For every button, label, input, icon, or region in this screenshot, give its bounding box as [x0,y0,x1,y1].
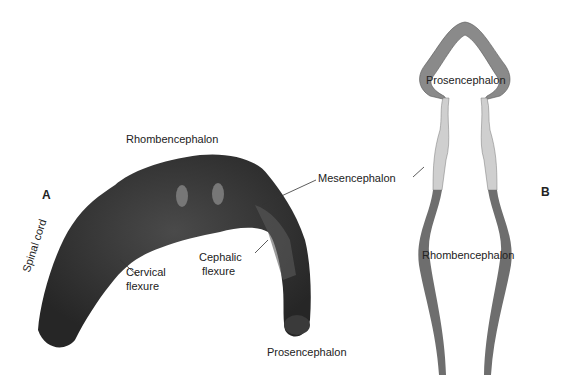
label-prosencephalon-b: Prosencephalon [426,74,506,87]
label-cervical-flexure-2: flexure [126,280,159,293]
label-rhombencephalon-a: Rhombencephalon [126,133,218,146]
diagram-graphics [0,0,579,387]
label-rhombencephalon-b: Rhombencephalon [422,249,514,262]
label-cervical-flexure-1: Cervical [126,266,166,279]
label-prosencephalon-a: Prosencephalon [267,346,347,359]
panel-label-a: A [42,188,51,202]
panel-label-b: B [541,185,550,199]
label-cephalic-flexure-2: flexure [202,265,235,278]
label-cephalic-flexure-1: Cephalic [199,251,242,264]
label-mesencephalon: Mesencephalon [318,172,396,185]
embryo-brain-diagram: A B Rhombencephalon Mesencephalon Spinal… [0,0,579,387]
embryo-3d-view [38,154,316,347]
